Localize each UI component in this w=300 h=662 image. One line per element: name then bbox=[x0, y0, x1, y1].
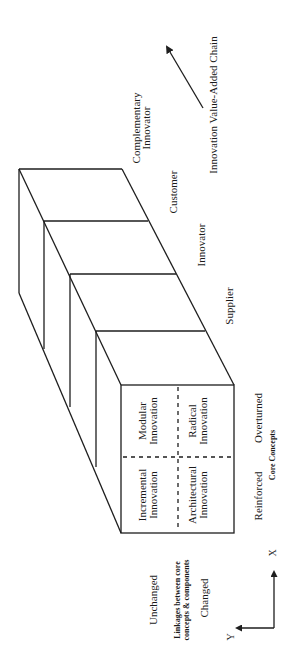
cell-architectural: Architectural Innovation bbox=[186, 466, 209, 524]
linkages-title-line2: concepts & components bbox=[182, 560, 191, 641]
cell-modular-line2: Innovation bbox=[147, 397, 159, 445]
innovation-framework-diagram: Modular Innovation Incremental Innovatio… bbox=[0, 0, 300, 662]
linkages-title-line1: Linkages between core bbox=[173, 561, 182, 639]
cell-modular: Modular Innovation bbox=[136, 397, 159, 445]
axes-indicator: X Y bbox=[225, 549, 278, 641]
cell-incremental: Incremental Innovation bbox=[136, 469, 159, 522]
value-chain-arrow: Innovation Value-Added Chain bbox=[167, 36, 219, 174]
core-concepts-reinforced: Reinforced bbox=[252, 471, 264, 520]
value-chain-arrow-icon bbox=[167, 47, 203, 108]
value-chain-arrow-label: Innovation Value-Added Chain bbox=[207, 36, 219, 174]
x-axis-label: X bbox=[267, 549, 278, 557]
cell-architectural-line2: Innovation bbox=[197, 471, 209, 519]
core-concepts-title: Core Concepts bbox=[268, 430, 277, 480]
linkages-axis: Unchanged Linkages between core concepts… bbox=[147, 560, 210, 641]
cell-incremental-line2: Innovation bbox=[147, 471, 159, 519]
stage-customer: Customer bbox=[167, 170, 179, 213]
stage-supplier: Supplier bbox=[223, 287, 235, 325]
value-chain-stages: Supplier Innovator Customer Complementar… bbox=[130, 92, 235, 325]
core-concepts-overturned: Overturned bbox=[252, 392, 264, 443]
stage-complementary-line2: Innovator bbox=[140, 106, 152, 149]
cell-radical-line2: Innovation bbox=[197, 397, 209, 445]
stage-innovator: Innovator bbox=[195, 223, 207, 266]
linkages-unchanged: Unchanged bbox=[147, 574, 159, 625]
linkages-changed: Changed bbox=[198, 578, 210, 618]
y-axis-label: Y bbox=[225, 633, 236, 640]
cell-radical: Radical Innovation bbox=[186, 397, 209, 445]
core-concepts-axis: Overturned Reinforced Core Concepts bbox=[252, 392, 277, 520]
